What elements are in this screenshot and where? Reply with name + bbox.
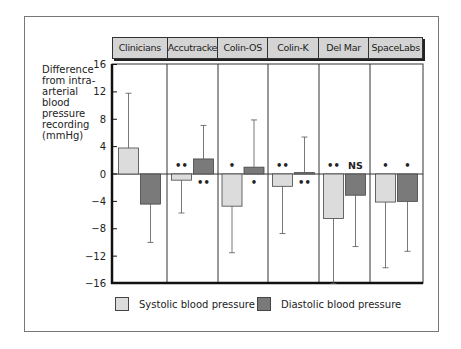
significance-marker: • [229, 160, 235, 171]
diastolic-bar [244, 167, 264, 174]
legend-label-systolic: Systolic blood pressure [139, 299, 255, 310]
systolic-bar [222, 174, 242, 206]
significance-marker: •• [327, 160, 340, 171]
significance-marker: •• [175, 160, 188, 171]
y-tick-label: −4 [91, 196, 106, 207]
y-tick-label: 4 [100, 141, 106, 152]
systolic-bar [172, 174, 192, 180]
y-tick-label: 8 [100, 114, 106, 125]
systolic-bar [324, 174, 344, 218]
systolic-swatch [115, 297, 129, 311]
y-tick-label: −16 [85, 278, 106, 289]
legend-item-diastolic: Diastolic blood pressure [257, 297, 401, 311]
legend-item-systolic: Systolic blood pressure [115, 297, 255, 311]
systolic-bar [273, 174, 293, 186]
legend-label-diastolic: Diastolic blood pressure [281, 299, 401, 310]
y-tick-label: −12 [85, 251, 106, 262]
y-tick-label: −8 [91, 223, 106, 234]
y-tick-label: 12 [93, 86, 106, 97]
diastolic-bar [346, 174, 366, 195]
significance-marker: • [404, 160, 410, 171]
y-tick-label: 0 [100, 169, 106, 180]
significance-marker: NS [348, 160, 363, 171]
y-tick-label: 16 [93, 59, 106, 70]
significance-marker: • [251, 177, 257, 188]
diastolic-bar [194, 159, 214, 174]
diastolic-bar [295, 173, 315, 174]
significance-marker: • [382, 160, 388, 171]
systolic-bar [376, 174, 396, 202]
systolic-bar [119, 148, 139, 174]
diastolic-swatch [257, 297, 271, 311]
diastolic-bar [398, 174, 418, 201]
significance-marker: •• [298, 177, 311, 188]
significance-marker: •• [197, 177, 210, 188]
significance-marker: •• [276, 160, 289, 171]
diastolic-bar [141, 174, 161, 204]
